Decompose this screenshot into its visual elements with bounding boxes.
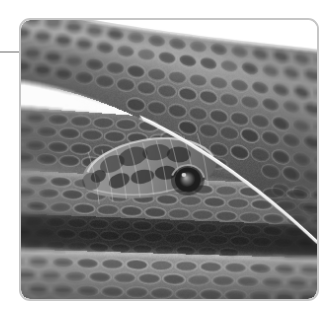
snake-photograph	[21, 20, 317, 299]
photo-clip	[21, 20, 317, 299]
figure-page	[0, 0, 335, 317]
photo-frame	[19, 18, 319, 301]
